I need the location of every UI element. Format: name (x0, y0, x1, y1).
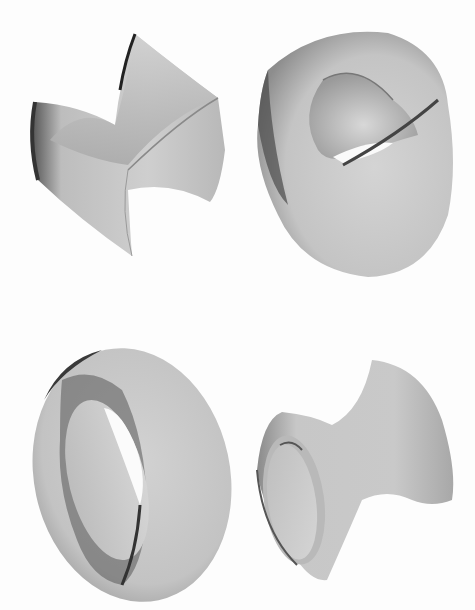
torus-surface-figure (22, 340, 247, 605)
saddle-surface-figure (20, 30, 240, 260)
hyperboloid-surface-figure (252, 360, 474, 605)
crosscap-surface-figure (248, 25, 473, 280)
